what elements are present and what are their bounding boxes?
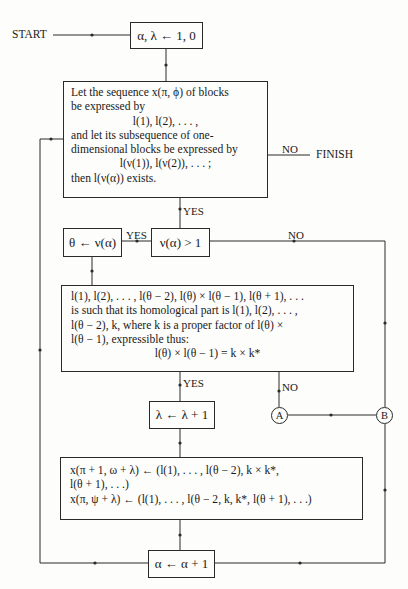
condition-line: dimensional blocks be expressed by <box>71 143 260 157</box>
start-terminal: START <box>12 28 47 40</box>
nu-no-label: NO <box>288 229 304 241</box>
theta-assign-box: θ ← ν(α) <box>63 228 122 257</box>
condition-box: Let the sequence x(π, ϕ) of blocks be ex… <box>63 81 268 198</box>
condition-line: then l(ν(α)) exists. <box>71 172 260 186</box>
connector-a: A <box>271 407 288 424</box>
assignment-line: x(π + 1, ω + λ) ← (l(1), . . . , l(θ − 2… <box>70 464 353 478</box>
condition-no-label: NO <box>282 143 298 155</box>
homology-box: l(1), l(2), . . . , l(θ − 2), l(θ) × l(θ… <box>61 285 354 372</box>
condition-yes-label: YES <box>183 205 204 217</box>
homology-line: l(1), l(2), . . . , l(θ − 2), l(θ) × l(θ… <box>71 290 344 304</box>
condition-line: and let its subsequence of one- <box>71 129 260 143</box>
condition-line: l(ν(1)), l(ν(2)), . . . ; <box>71 157 260 171</box>
assignment-line: l(θ + 1), . . .) <box>70 478 353 492</box>
homology-yes-label: YES <box>183 377 204 389</box>
homology-line: l(θ − 2), k, where k is a proper factor … <box>71 319 344 333</box>
finish-terminal: FINISH <box>316 148 353 160</box>
lambda-increment-box: λ ← λ + 1 <box>149 401 215 429</box>
condition-line: be expressed by <box>71 100 260 114</box>
assignment-box: x(π + 1, ω + λ) ← (l(1), . . . , l(θ − 2… <box>60 457 363 520</box>
connector-b: B <box>376 407 393 424</box>
homology-line: l(θ − 1), expressible thus: <box>71 333 344 347</box>
homology-no-label: NO <box>282 381 298 393</box>
nu-yes-label: YES <box>126 229 147 241</box>
init-box: α, λ ← 1, 0 <box>130 22 203 49</box>
assignment-line: x(π, ψ + λ) ← (l(1), . . . , l(θ − 2, k,… <box>70 493 353 507</box>
condition-line: Let the sequence x(π, ϕ) of blocks <box>71 86 260 100</box>
homology-line: is such that its homological part is l(1… <box>71 304 344 318</box>
homology-line: l(θ) × l(θ − 1) = k × k* <box>71 347 344 361</box>
alpha-increment-box: α ← α + 1 <box>148 550 215 578</box>
condition-line: l(1), l(2), . . . , <box>71 115 260 129</box>
nu-test-box: ν(α) > 1 <box>151 228 210 257</box>
